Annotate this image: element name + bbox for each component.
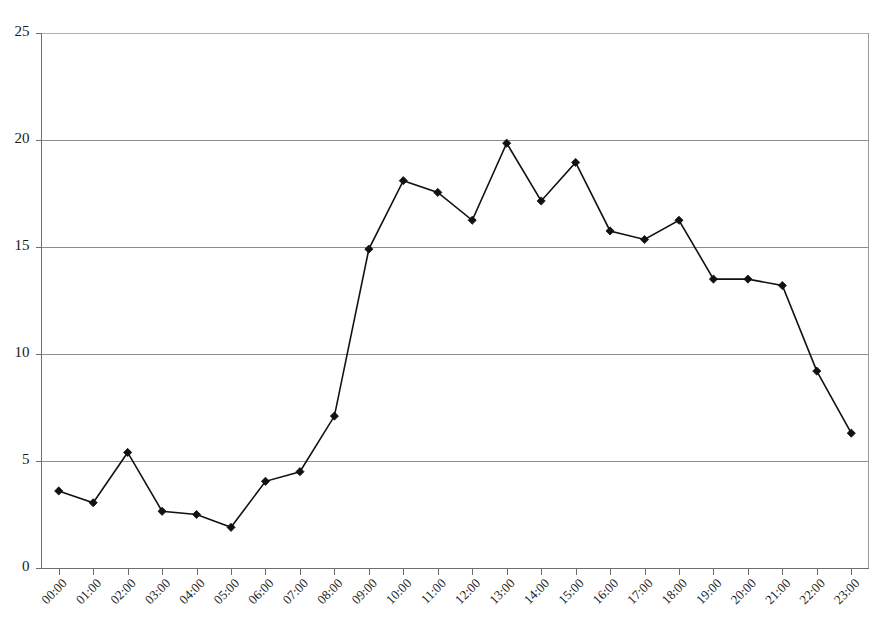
line-chart: 0510152025 00:0001:0002:0003:0004:0005:0… [0, 0, 888, 641]
y-tick-label: 5 [22, 451, 30, 467]
chart-container: 0510152025 00:0001:0002:0003:0004:0005:0… [0, 0, 888, 641]
y-tick-label: 25 [15, 23, 30, 39]
y-tick-label: 0 [22, 558, 30, 574]
chart-background [0, 0, 888, 641]
y-tick-label: 10 [15, 344, 30, 360]
y-tick-label: 15 [15, 237, 30, 253]
y-tick-label: 20 [15, 130, 30, 146]
